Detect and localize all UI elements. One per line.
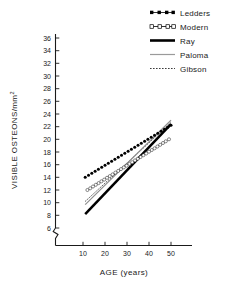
x-tick-label: 20 (101, 250, 109, 257)
y-tick-label: 32 (43, 60, 51, 67)
x-tick-label: 10 (79, 250, 87, 257)
y-axis-tick-labels: 36 34 32 30 28 26 24 22 20 18 16 14 12 1… (43, 35, 51, 232)
x-tick-label: 50 (167, 250, 175, 257)
legend-entry-paloma[interactable]: Paloma (150, 51, 209, 60)
y-axis-title: VISIBLE OSTEONS/mm2 (9, 91, 19, 189)
y-tick-label: 18 (43, 149, 51, 156)
y-tick-label: 24 (43, 111, 51, 118)
y-tick-label: 36 (43, 35, 51, 42)
y-tick-label: 20 (43, 136, 51, 143)
x-axis-tick-labels: 10 20 30 40 50 (79, 250, 175, 257)
chart-figure: Ledders Modern Ray (0, 0, 234, 287)
y-tick-label: 10 (43, 199, 51, 206)
open-square-marker-line-icon (150, 25, 175, 29)
chart-axes: 36 34 32 30 28 26 24 22 20 18 16 14 12 1… (9, 34, 192, 277)
y-tick-label: 26 (43, 98, 51, 105)
y-tick-label: 30 (43, 73, 51, 80)
series-line-modern (86, 138, 171, 192)
y-tick-label: 14 (43, 174, 51, 181)
x-tick-label: 30 (123, 250, 131, 257)
y-tick-label: 22 (43, 123, 51, 130)
legend-entry-ray[interactable]: Ray (150, 37, 195, 46)
osteon-age-scatter-plot: Ledders Modern Ray (0, 0, 234, 287)
chart-plot-area (84, 120, 173, 214)
legend-label-modern: Modern (180, 23, 208, 32)
y-axis-title-superscript: 2 (9, 91, 15, 94)
dotted-square-marker-line-icon (150, 11, 175, 14)
y-tick-label: 34 (43, 47, 51, 54)
svg-text:VISIBLE OSTEONS/mm2: VISIBLE OSTEONS/mm2 (9, 91, 19, 189)
y-tick-label: 16 (43, 161, 51, 168)
y-tick-label: 28 (43, 85, 51, 92)
legend-label-paloma: Paloma (180, 51, 209, 60)
legend-entry-ledders[interactable]: Ledders (150, 9, 210, 18)
legend-entry-modern[interactable]: Modern (150, 23, 208, 32)
y-tick-label: 12 (43, 187, 51, 194)
x-axis-ticks (83, 242, 171, 246)
y-axis-title-text: VISIBLE OSTEONS/mm (10, 95, 19, 189)
y-axis-break-icon (53, 228, 58, 246)
legend-entry-gibson[interactable]: Gibson (150, 65, 207, 74)
x-axis-title: AGE (years) (100, 268, 148, 277)
legend-label-ledders: Ledders (180, 9, 210, 18)
legend-label-ray: Ray (180, 37, 195, 46)
legend-label-gibson: Gibson (180, 65, 207, 74)
y-tick-label: 6 (47, 225, 51, 232)
y-tick-label: 8 (47, 212, 51, 219)
x-tick-label: 40 (145, 250, 153, 257)
chart-legend: Ledders Modern Ray (150, 9, 210, 74)
y-axis-ticks (56, 38, 60, 228)
